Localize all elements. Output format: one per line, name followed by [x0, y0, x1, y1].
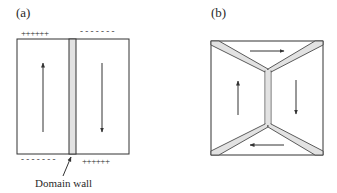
domain-diagram: (a) ++++++ - - - - - - - - - - - - - - +… [0, 0, 337, 193]
domain-wall [69, 39, 76, 154]
panel-b: (b) [211, 5, 323, 155]
panel-a-label: (a) [16, 5, 30, 20]
panel-b-label: (b) [211, 5, 226, 20]
bottom-right-charges: ++++++ [82, 156, 110, 166]
domain-wall-caption: Domain wall [35, 177, 92, 189]
top-left-charges: ++++++ [21, 28, 49, 38]
closure-walls [211, 41, 323, 155]
panel-a: (a) ++++++ - - - - - - - - - - - - - - +… [16, 5, 129, 189]
bottom-left-charges: - - - - - - - [21, 154, 55, 164]
pointer-arrow-icon [63, 157, 71, 176]
top-right-charges: - - - - - - - [80, 26, 114, 36]
